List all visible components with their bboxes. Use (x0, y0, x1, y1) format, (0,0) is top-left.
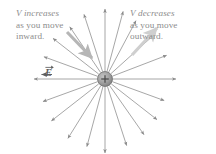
e-field-label: E (45, 68, 52, 79)
field-line (112, 55, 166, 76)
annotation-right-line2: as you move (130, 20, 178, 32)
point-charge (98, 72, 113, 87)
annotation-left-line2: as you move (16, 20, 64, 32)
annotation-right-line1: V decreases (130, 8, 178, 20)
field-line (107, 11, 123, 71)
electric-field-diagram: V increases as you move inward. V decrea… (0, 0, 216, 154)
vector-arrow-icon (45, 64, 54, 69)
e-field-symbol: E (45, 67, 52, 78)
annotation-right-line3: outward. (130, 31, 178, 43)
field-line (84, 14, 103, 71)
field-line (107, 87, 126, 146)
field-line (51, 84, 98, 121)
annotation-left: V increases as you move inward. (16, 8, 64, 43)
annotation-right: V decreases as you move outward. (130, 8, 178, 43)
annotation-left-line3: inward. (16, 31, 64, 43)
left-pointer (67, 32, 92, 58)
annotation-left-line1: V increases (16, 8, 64, 20)
